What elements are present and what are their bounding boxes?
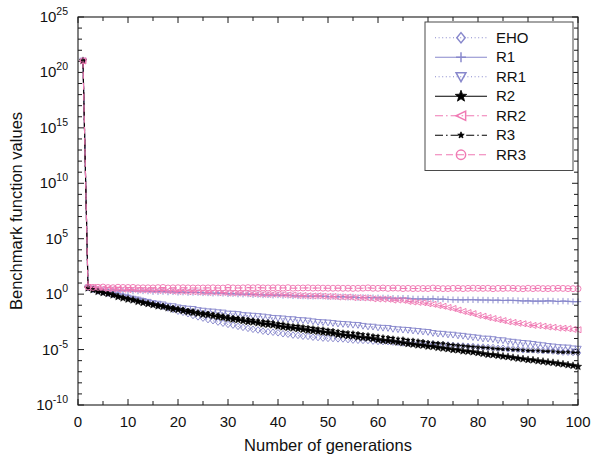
x-tick-label: 10 — [120, 413, 137, 430]
figure-container: Benchmark function values Number of gene… — [0, 0, 596, 457]
legend-label: R3 — [496, 126, 515, 143]
x-tick-label: 90 — [520, 413, 537, 430]
x-tick-label: 80 — [470, 413, 487, 430]
benchmark-convergence-chart: Benchmark function values Number of gene… — [0, 0, 596, 457]
legend-label: R1 — [496, 48, 515, 65]
legend-label: EHO — [496, 29, 529, 46]
x-axis-title: Number of generations — [244, 436, 412, 454]
x-tick-label: 20 — [170, 413, 187, 430]
x-axis-title-text: Number of generations — [244, 436, 412, 454]
x-tick-label: 70 — [420, 413, 437, 430]
chart-legend[interactable]: EHOR1RR1R2RR2R3RR3 — [425, 22, 573, 171]
legend-label: RR3 — [496, 146, 526, 163]
x-tick-label: 0 — [74, 413, 82, 430]
x-tick-label: 60 — [370, 413, 387, 430]
y-axis-title-text: Benchmark function values — [7, 112, 25, 310]
x-tick-label: 50 — [320, 413, 337, 430]
legend-label: R2 — [496, 87, 515, 104]
legend-label: RR2 — [496, 107, 526, 124]
x-tick-label: 30 — [220, 413, 237, 430]
legend-label: RR1 — [496, 68, 526, 85]
y-axis-title: Benchmark function values — [7, 112, 25, 310]
x-tick-label: 40 — [270, 413, 287, 430]
x-tick-label: 100 — [565, 413, 590, 430]
